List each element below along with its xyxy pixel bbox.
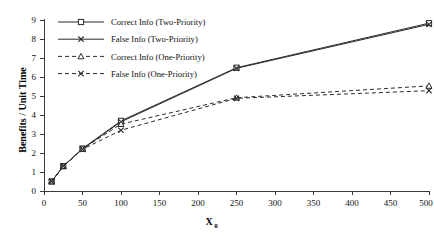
x-tick-label: 100 xyxy=(114,198,128,208)
x-tick-5: 250 xyxy=(230,191,244,208)
x-tick-3: 150 xyxy=(153,191,167,208)
legend-marker-icon xyxy=(78,19,83,24)
series-layer xyxy=(49,21,432,185)
legend-label: Correct Info (Two-Priority) xyxy=(111,17,206,27)
y-tick-label: 6 xyxy=(32,72,37,82)
x-tick-label: 400 xyxy=(345,198,359,208)
line-chart: Benefits / Unit Time 0 1 2 3 4 5 6 7 8 9… xyxy=(0,0,434,238)
x-tick-label: 350 xyxy=(307,198,321,208)
y-axis-title: Benefits / Unit Time xyxy=(17,67,28,153)
x-tick-4: 200 xyxy=(191,191,205,208)
series-line xyxy=(52,24,429,181)
y-tick-0: 0 xyxy=(32,186,45,196)
legend-item-1: False Info (Two-Priority) xyxy=(58,34,198,44)
y-tick-label: 1 xyxy=(32,167,37,177)
series-line xyxy=(52,91,429,182)
x-tick-label: 250 xyxy=(230,198,244,208)
chart-figure: Benefits / Unit Time 0 1 2 3 4 5 6 7 8 9… xyxy=(0,0,434,238)
legend-marker-icon xyxy=(78,53,84,58)
x-axis-title-text: X xyxy=(205,216,213,227)
x-axis-title-subscript: 0 xyxy=(214,222,218,230)
x-tick-0: 0 xyxy=(42,191,47,208)
x-tick-label: 150 xyxy=(153,198,167,208)
y-tick-label: 3 xyxy=(32,129,37,139)
x-tick-9: 450 xyxy=(384,191,398,208)
legend-item-2: Correct Info (One-Priority) xyxy=(58,52,205,62)
series-0 xyxy=(49,21,432,184)
y-tick-9: 9 xyxy=(32,15,45,25)
x-tick-label: 300 xyxy=(268,198,282,208)
y-tick-7: 7 xyxy=(32,53,45,63)
y-tick-label: 9 xyxy=(32,15,37,25)
y-tick-2: 2 xyxy=(32,148,45,158)
y-axis-ticks: 0 1 2 3 4 5 6 7 8 9 xyxy=(32,15,45,196)
series-line xyxy=(52,23,429,181)
legend-label: False Info (Two-Priority) xyxy=(111,34,198,44)
y-tick-1: 1 xyxy=(32,167,45,177)
x-tick-7: 350 xyxy=(307,191,321,208)
y-tick-label: 8 xyxy=(32,34,37,44)
y-tick-6: 6 xyxy=(32,72,45,82)
y-tick-label: 0 xyxy=(32,186,37,196)
x-axis-ticks: 0 50 100 150 200 250 300 350 400 450 500 xyxy=(42,191,434,208)
series-1 xyxy=(49,22,432,184)
x-tick-6: 300 xyxy=(268,191,282,208)
y-tick-label: 7 xyxy=(32,53,37,63)
y-tick-5: 5 xyxy=(32,91,45,101)
x-tick-label: 50 xyxy=(78,198,88,208)
x-tick-8: 400 xyxy=(345,191,359,208)
x-tick-label: 450 xyxy=(384,198,398,208)
y-tick-label: 2 xyxy=(32,148,37,158)
x-tick-label: 200 xyxy=(191,198,205,208)
y-tick-label: 5 xyxy=(32,91,37,101)
data-point-marker xyxy=(118,128,123,133)
x-tick-label: 0 xyxy=(42,198,47,208)
x-tick-label: 500 xyxy=(419,198,433,208)
chart-legend: Correct Info (Two-Priority)False Info (T… xyxy=(58,17,206,79)
x-axis-title: X 0 xyxy=(205,216,218,230)
y-tick-3: 3 xyxy=(32,129,45,139)
y-tick-8: 8 xyxy=(32,34,45,44)
series-line xyxy=(52,86,429,182)
y-axis-title-text: Benefits / Unit Time xyxy=(17,67,28,153)
x-tick-1: 50 xyxy=(78,191,88,208)
legend-item-3: False Info (One-Priority) xyxy=(58,69,197,79)
legend-label: False Info (One-Priority) xyxy=(111,69,197,79)
legend-item-0: Correct Info (Two-Priority) xyxy=(58,17,206,27)
legend-label: Correct Info (One-Priority) xyxy=(111,52,205,62)
x-tick-2: 100 xyxy=(114,191,128,208)
series-3 xyxy=(49,88,432,184)
y-tick-label: 4 xyxy=(32,110,37,120)
x-tick-10: 500 xyxy=(419,191,433,208)
y-tick-4: 4 xyxy=(32,110,45,120)
